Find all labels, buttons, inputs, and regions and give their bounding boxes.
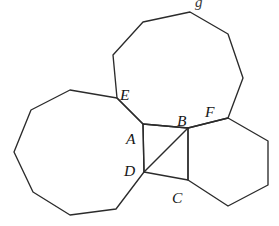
geometry-figure: g A B C D E F <box>0 0 279 226</box>
clipped-glyph: g <box>195 0 203 11</box>
vertex-label-c: C <box>172 190 182 206</box>
right-hexagon <box>188 118 268 206</box>
vertex-label-a: A <box>126 131 135 147</box>
top-nonagon <box>113 12 243 128</box>
left-nonagon <box>14 90 144 215</box>
square-diagonal-db <box>144 128 188 172</box>
vertex-label-d: D <box>124 163 135 179</box>
vertex-label-e: E <box>120 87 129 103</box>
center-square <box>143 124 188 180</box>
figure-canvas <box>0 0 279 226</box>
vertex-label-b: B <box>177 113 186 129</box>
vertex-label-f: F <box>205 104 214 120</box>
